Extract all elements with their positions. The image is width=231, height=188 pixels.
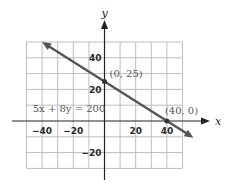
equation-label: 5x + 8y = 200: [33, 103, 106, 114]
linear-equation-graph: xy −40−2020404020−20 (0, 25)(40, 0) 5x +…: [0, 0, 231, 188]
y-axis-arrow-icon: [101, 20, 108, 29]
y-tick-label: 20: [89, 85, 102, 95]
point-label: (0, 25): [110, 68, 143, 79]
x-tick-label: 40: [161, 126, 174, 136]
intercept-point: [102, 79, 107, 84]
x-axis-label: x: [215, 115, 222, 128]
x-tick-label: −20: [63, 126, 83, 136]
x-axis-arrow-icon: [201, 118, 210, 125]
x-tick-label: 20: [129, 126, 142, 136]
annotations: 5x + 8y = 200: [33, 103, 106, 114]
y-tick-label: 40: [89, 53, 102, 63]
point-label: (40, 0): [165, 105, 198, 116]
y-axis-label: y: [101, 7, 109, 20]
x-tick-label: −40: [32, 126, 52, 136]
intercept-point: [164, 119, 169, 124]
y-tick-label: −20: [81, 148, 101, 158]
axes: xy: [12, 7, 222, 180]
intercept-points: (0, 25)(40, 0): [102, 68, 198, 124]
